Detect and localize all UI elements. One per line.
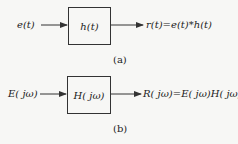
output-signal-b: R( jω)=E( jω)H( jω): [143, 88, 238, 100]
system-label-b: H( jω): [68, 90, 110, 101]
system-block-a: h(t): [68, 7, 111, 45]
input-signal-a: e(t): [17, 19, 35, 31]
caption-b: (b): [113, 123, 127, 135]
system-label-a: h(t): [69, 21, 110, 32]
caption-a: (a): [113, 54, 127, 66]
system-block-b: H( jω): [67, 76, 111, 114]
input-signal-b: E( jω): [8, 88, 38, 100]
output-signal-a: r(t)=e(t)*h(t): [146, 19, 212, 31]
